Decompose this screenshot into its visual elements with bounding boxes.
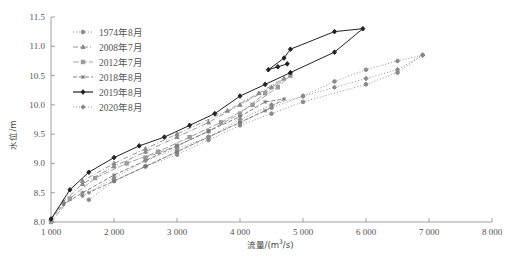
- legend-item: 1974年8月: [73, 27, 143, 38]
- x-ticks: 1 0002 0003 0004 0005 0006 0007 0008 000: [41, 218, 503, 237]
- data-point: [175, 132, 179, 136]
- data-point: [263, 100, 267, 104]
- data-point: [257, 91, 261, 95]
- data-point: [263, 82, 267, 87]
- data-point: [282, 97, 286, 101]
- legend-label: 2019年8月: [99, 87, 143, 98]
- legend-marker: [81, 90, 85, 95]
- legend-item: 2012年7月: [73, 57, 143, 68]
- series-1: [49, 76, 286, 220]
- data-point: [87, 191, 91, 195]
- legend-label: 2012年7月: [99, 57, 143, 68]
- data-point: [364, 76, 368, 81]
- data-point: [251, 103, 254, 106]
- legend-marker: [81, 60, 84, 63]
- legend-marker: [81, 105, 85, 110]
- data-point: [112, 155, 116, 160]
- x-tick-label: 7 000: [419, 227, 440, 237]
- data-point: [125, 162, 128, 165]
- data-point: [144, 164, 148, 168]
- series-line: [51, 99, 284, 219]
- data-point: [270, 112, 274, 116]
- data-point: [62, 202, 66, 206]
- legend-item: 2008年7月: [73, 42, 143, 53]
- data-point: [162, 135, 166, 140]
- data-point: [68, 197, 71, 200]
- data-point: [137, 144, 141, 149]
- x-tick-label: 1 000: [41, 227, 62, 237]
- legend-marker: [81, 75, 85, 79]
- data-point: [285, 62, 289, 67]
- data-point: [93, 176, 96, 179]
- y-tick-label: 9.5: [34, 129, 46, 139]
- data-point: [264, 91, 267, 94]
- data-point: [301, 100, 305, 104]
- series-line: [51, 79, 284, 220]
- x-tick-label: 6 000: [356, 227, 377, 237]
- x-tick-label: 2 000: [104, 227, 125, 237]
- data-point: [144, 147, 148, 151]
- legend-item: 2018年8月: [73, 72, 143, 83]
- data-point: [225, 109, 229, 113]
- y-tick-label: 11.5: [30, 12, 46, 22]
- data-point: [87, 198, 91, 202]
- rating-curve-chart: 8.08.59.09.510.010.511.011.5 1 0002 0003…: [0, 0, 509, 259]
- legend: 1974年8月2008年7月2012年7月2018年8月2019年8月2020年…: [73, 27, 143, 113]
- x-tick-label: 5 000: [293, 227, 314, 237]
- data-point: [396, 59, 400, 63]
- data-point: [276, 64, 280, 69]
- data-point: [207, 120, 211, 124]
- data-point: [238, 94, 242, 99]
- data-point: [156, 150, 159, 153]
- data-point: [188, 135, 191, 138]
- y-tick-label: 8.5: [34, 188, 46, 198]
- legend-label: 1974年8月: [99, 27, 143, 38]
- legend-label: 2020年8月: [99, 102, 143, 113]
- legend-label: 2018年8月: [99, 72, 143, 83]
- data-point: [263, 109, 267, 113]
- series-layer: [49, 26, 425, 223]
- legend-item: 2020年8月: [73, 102, 143, 113]
- legend-item: 2019年8月: [73, 87, 143, 98]
- data-point: [364, 83, 368, 87]
- data-point: [219, 121, 222, 124]
- data-point: [364, 68, 368, 72]
- x-tick-label: 3 000: [167, 227, 188, 237]
- x-tick-label: 4 000: [230, 227, 251, 237]
- y-tick-label: 11.0: [30, 41, 46, 51]
- data-point: [276, 86, 279, 89]
- y-tick-label: 8.0: [34, 217, 46, 227]
- data-point: [333, 29, 337, 34]
- x-axis-title: 流量/(m3/s): [247, 238, 294, 250]
- x-tick-label: 8 000: [482, 227, 503, 237]
- legend-marker: [81, 45, 85, 49]
- legend-label: 2008年7月: [99, 42, 143, 53]
- data-point: [112, 161, 116, 165]
- data-point: [207, 129, 211, 133]
- series-3: [49, 97, 286, 221]
- y-axis-title: 水位/m: [8, 120, 18, 149]
- data-point: [188, 123, 192, 128]
- data-point: [333, 85, 337, 90]
- legend-marker: [81, 30, 85, 34]
- y-tick-label: 10.5: [29, 71, 45, 81]
- y-tick-label: 10.0: [29, 100, 45, 110]
- data-point: [333, 80, 337, 84]
- y-tick-label: 9.0: [34, 158, 46, 168]
